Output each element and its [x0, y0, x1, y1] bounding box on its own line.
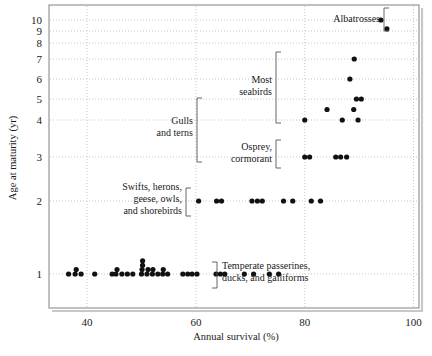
x-tick-80: 80 [299, 316, 311, 328]
albatrosses-label: Albatrosses [333, 13, 380, 24]
y-tick-5: 5 [37, 93, 43, 105]
swifts-bracket [186, 188, 191, 216]
data-point [150, 271, 155, 276]
annotation-swifts-herons: Swifts, herons, geese, owls, and shorebi… [122, 181, 191, 216]
y-tick-3: 3 [37, 151, 43, 163]
data-point [352, 56, 357, 61]
data-point [281, 198, 286, 203]
data-point [119, 271, 124, 276]
gulls-bracket [197, 98, 202, 162]
data-point [318, 198, 323, 203]
data-point [333, 154, 338, 159]
data-point [359, 96, 364, 101]
most-seabirds-bracket [276, 52, 281, 123]
y-axis-title: Age at maturity (yr) [7, 115, 19, 200]
x-axis-title: Annual survival (%) [193, 331, 279, 343]
x-tick-40: 40 [82, 316, 94, 328]
most-seabirds-label-line2: seabirds [239, 86, 272, 97]
passerines-label-line1: Temperate passerines, [222, 260, 310, 271]
annotation-gulls-and-terns: Gulls and terns [157, 98, 202, 162]
data-point [155, 271, 160, 276]
annotation-most-seabirds: Most seabirds [239, 52, 281, 123]
most-seabirds-label-line1: Most [251, 74, 272, 85]
gridlines [50, 20, 418, 274]
data-point [290, 198, 295, 203]
osprey-label-line1: Osprey, [241, 141, 272, 152]
data-point [140, 258, 145, 263]
data-point [161, 267, 166, 272]
osprey-label-line2: cormorant [231, 153, 272, 164]
data-point [338, 154, 343, 159]
data-point [347, 76, 352, 81]
data-point [260, 198, 265, 203]
scatter-plot-figure: 12345678910 406080100 Annual survival (%… [0, 0, 432, 356]
data-point [214, 198, 219, 203]
data-point [324, 107, 329, 112]
data-point [139, 271, 144, 276]
data-point [160, 271, 165, 276]
x-tick-100: 100 [405, 316, 422, 328]
data-point [74, 267, 79, 272]
gulls-label-line1: Gulls [171, 115, 193, 126]
data-point [351, 107, 356, 112]
x-tick-labels: 406080100 [82, 316, 423, 328]
data-point [92, 271, 97, 276]
y-tick-4: 4 [37, 114, 43, 126]
y-tick-labels: 12345678910 [31, 14, 43, 280]
y-tick-10: 10 [31, 14, 43, 26]
data-point [145, 267, 150, 272]
data-point [190, 271, 195, 276]
swifts-label-line2: geese, owls, [133, 193, 182, 204]
data-point [66, 271, 71, 276]
data-point [79, 271, 84, 276]
y-tick-7: 7 [37, 53, 43, 65]
data-point [113, 271, 118, 276]
data-point [340, 117, 345, 122]
data-point [196, 198, 201, 203]
y-tick-1: 1 [37, 268, 43, 280]
data-point [194, 271, 199, 276]
data-point [302, 117, 307, 122]
data-point [150, 267, 155, 272]
data-point [309, 198, 314, 203]
data-point [165, 271, 170, 276]
data-point [249, 198, 254, 203]
data-point [130, 271, 135, 276]
data-point [307, 154, 312, 159]
y-tick-2: 2 [37, 195, 43, 207]
data-point [125, 271, 130, 276]
y-tick-6: 6 [37, 73, 43, 85]
swifts-label-line3: and shorebirds [123, 205, 182, 216]
data-point [344, 154, 349, 159]
data-point [355, 117, 360, 122]
data-point [139, 267, 144, 272]
osprey-bracket [276, 140, 281, 168]
annotation-osprey-cormorant: Osprey, cormorant [231, 140, 281, 168]
x-tick-60: 60 [190, 316, 202, 328]
chart-canvas: 12345678910 406080100 Annual survival (%… [0, 0, 432, 356]
data-point [114, 267, 119, 272]
gulls-label-line2: and terns [157, 127, 193, 138]
data-point [219, 198, 224, 203]
data-point [354, 96, 359, 101]
data-point [144, 271, 149, 276]
data-point [302, 154, 307, 159]
annotation-temperate-passerines: Temperate passerines, ducks, and gallifo… [212, 260, 310, 288]
y-tick-8: 8 [37, 37, 43, 49]
data-points [66, 17, 390, 276]
swifts-label-line1: Swifts, herons, [122, 181, 182, 192]
data-point [180, 271, 185, 276]
passerines-label-line2: ducks, and galliforms [222, 272, 308, 283]
data-point [73, 271, 78, 276]
data-point [255, 198, 260, 203]
y-tick-9: 9 [37, 25, 43, 37]
